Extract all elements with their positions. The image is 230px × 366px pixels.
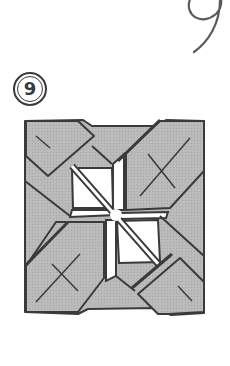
step-number-badge: 9 xyxy=(13,72,47,106)
step-number: 9 xyxy=(17,76,43,102)
origami-fold-diagram xyxy=(20,116,210,320)
page-number-9-glyph xyxy=(180,0,230,54)
